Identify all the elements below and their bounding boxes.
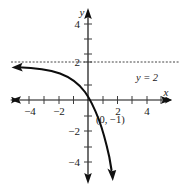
x-tick-label-4: 4	[144, 105, 150, 117]
y-axis-label: y	[79, 6, 85, 18]
graph-canvas: −4 −2 2 4 4 2 −2 −4 x y y = 2 (0, −1)	[0, 0, 185, 191]
y-tick-label--4: −4	[68, 156, 80, 168]
x-axis-label: x	[163, 86, 169, 98]
y-tick-label-4: 4	[75, 18, 81, 30]
y-tick-label--2: −2	[68, 125, 80, 137]
y-intercept-point-label: (0, −1)	[96, 114, 125, 126]
y-tick-label-2: 2	[75, 56, 81, 68]
axis-arrowheads	[10, 8, 172, 184]
exponential-function-graph: −4 −2 2 4 4 2 −2 −4 x y y = 2 (0, −1)	[0, 0, 185, 191]
x-tick-label--4: −4	[24, 105, 36, 117]
x-tick-label--2: −2	[53, 105, 65, 117]
axis-group	[14, 12, 168, 178]
asymptote-label: y = 2	[135, 72, 159, 83]
